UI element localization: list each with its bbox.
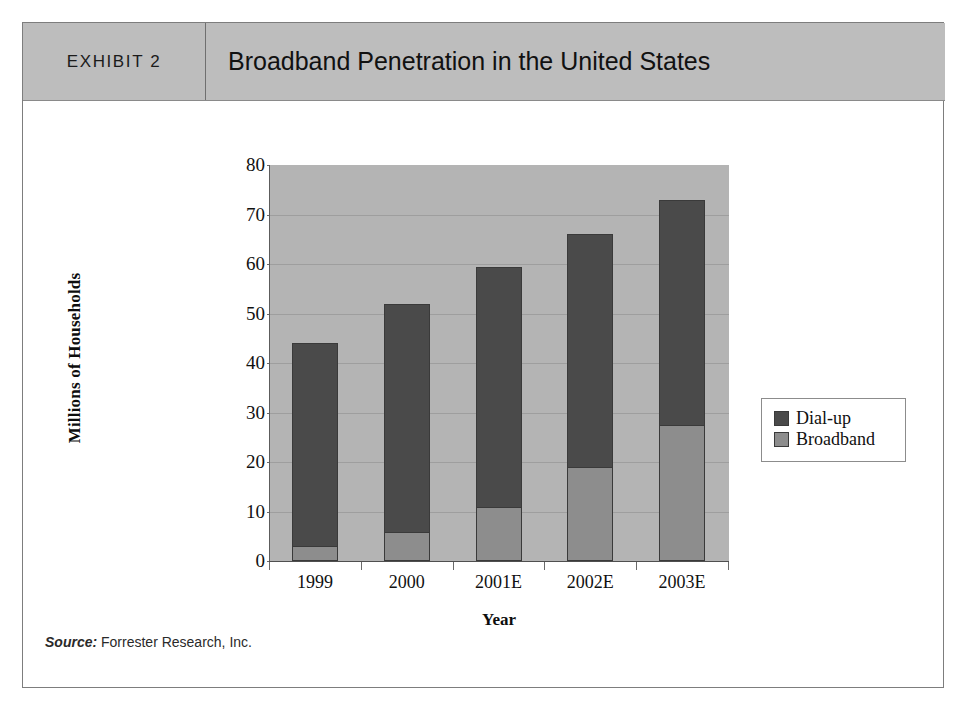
- legend-label: Dial-up: [796, 409, 851, 427]
- x-tick-label: 2001E: [454, 572, 544, 593]
- x-tick-label: 2003E: [637, 572, 727, 593]
- bar-segment-dial-up: [384, 304, 430, 533]
- source-note-text: Forrester Research, Inc.: [97, 634, 252, 650]
- bar-segment-dial-up: [567, 234, 613, 467]
- y-tick-label: 20: [219, 451, 265, 473]
- source-note: Source: Forrester Research, Inc.: [45, 634, 252, 650]
- chart-figure: Millions of Households 01020304050607080…: [23, 102, 943, 687]
- bar-group: [567, 165, 613, 561]
- legend-item: Broadband: [774, 430, 895, 448]
- source-note-label: Source:: [45, 634, 97, 650]
- chart-legend: Dial-upBroadband: [761, 398, 906, 462]
- legend-swatch-icon: [774, 432, 789, 447]
- legend-label: Broadband: [796, 430, 875, 448]
- bar-segment-broadband: [567, 467, 613, 561]
- y-tick-label: 50: [219, 303, 265, 325]
- bar-segment-dial-up: [659, 200, 705, 425]
- x-tick-mark: [453, 562, 454, 570]
- x-tick-mark: [544, 562, 545, 570]
- exhibit-frame: EXHIBIT 2 Broadband Penetration in the U…: [22, 22, 944, 688]
- y-axis-title: Millions of Households: [65, 228, 85, 488]
- y-tick-label: 0: [219, 550, 265, 572]
- page-title: Broadband Penetration in the United Stat…: [228, 47, 710, 76]
- x-tick-mark: [636, 562, 637, 570]
- y-tick-label: 70: [219, 204, 265, 226]
- bar-segment-broadband: [292, 546, 338, 561]
- x-tick-mark: [728, 562, 729, 570]
- bar-segment-broadband: [476, 507, 522, 561]
- x-tick-label: 1999: [270, 572, 360, 593]
- bar-group: [476, 165, 522, 561]
- x-tick-mark: [269, 562, 270, 570]
- x-tick-mark: [361, 562, 362, 570]
- bar-segment-dial-up: [292, 343, 338, 546]
- exhibit-number-cell: EXHIBIT 2: [23, 23, 206, 100]
- exhibit-header: EXHIBIT 2 Broadband Penetration in the U…: [23, 23, 945, 101]
- y-tick-label: 60: [219, 253, 265, 275]
- bar-group: [384, 165, 430, 561]
- bar-segment-broadband: [384, 532, 430, 561]
- bar-group: [292, 165, 338, 561]
- y-tick-label: 80: [219, 154, 265, 176]
- y-tick-label: 30: [219, 402, 265, 424]
- y-tick-label: 10: [219, 501, 265, 523]
- bar-segment-dial-up: [476, 267, 522, 507]
- x-axis-line: [269, 561, 729, 562]
- legend-item: Dial-up: [774, 409, 895, 427]
- exhibit-title-cell: Broadband Penetration in the United Stat…: [206, 23, 945, 100]
- bar-segment-broadband: [659, 425, 705, 561]
- x-tick-label: 2000: [362, 572, 452, 593]
- x-tick-label: 2002E: [545, 572, 635, 593]
- x-axis-title: Year: [269, 610, 729, 630]
- bar-group: [659, 165, 705, 561]
- y-tick-label: 40: [219, 352, 265, 374]
- exhibit-number-label: EXHIBIT 2: [67, 52, 161, 72]
- y-axis-ticks: 01020304050607080: [213, 102, 265, 687]
- legend-swatch-icon: [774, 411, 789, 426]
